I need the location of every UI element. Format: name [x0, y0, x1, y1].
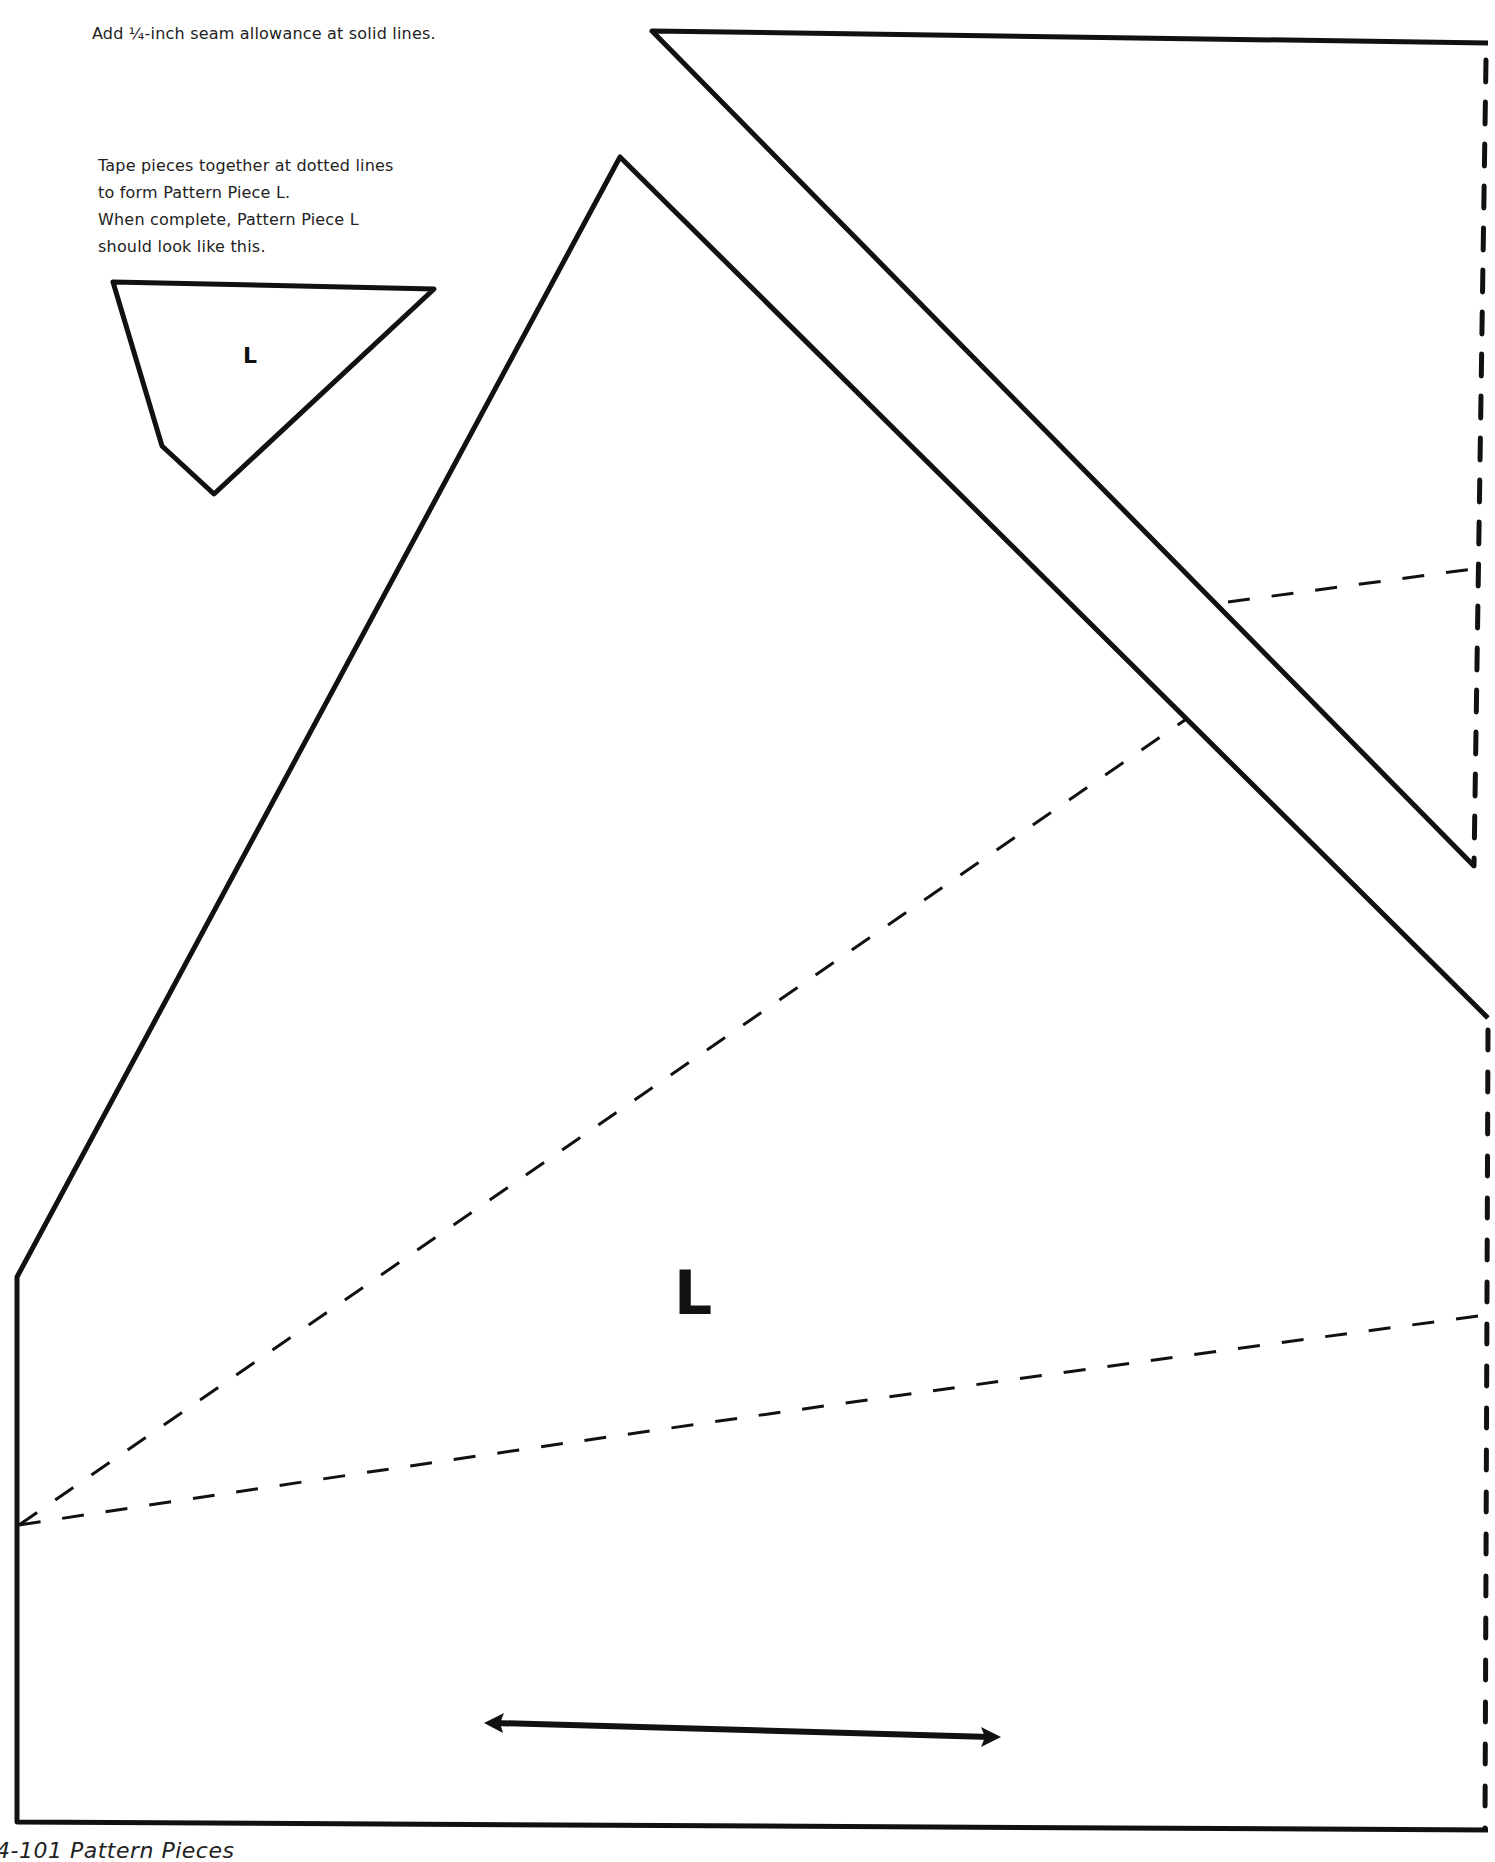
main-piece-dashed-edge: [1485, 1030, 1488, 1828]
preview-piece-outline: [113, 282, 434, 494]
main-piece-label: L: [674, 1258, 712, 1328]
main-piece-tape-line-curve: [19, 1315, 1486, 1525]
grainline-arrow-icon: [484, 1713, 1001, 1747]
main-piece-solid-edges: [17, 157, 1488, 1830]
main-piece-tape-line-diagonal: [19, 720, 1185, 1525]
figure-caption: 4-101 Pattern Pieces: [0, 1838, 234, 1862]
preview-piece-label: L: [243, 343, 257, 368]
pattern-drawing: [0, 0, 1495, 1862]
upper-piece-dashed-edge: [1474, 60, 1486, 866]
upper-piece-solid-edges: [652, 31, 1488, 866]
upper-piece-tape-line: [1228, 568, 1480, 602]
